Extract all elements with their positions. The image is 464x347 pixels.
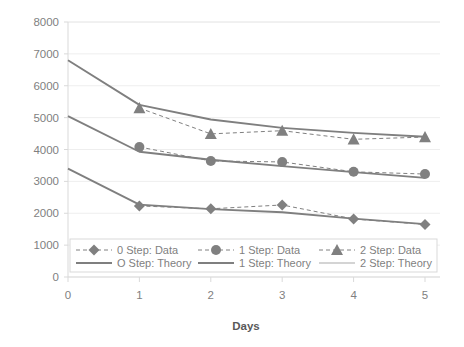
legend-label: 2 Step: Theory	[360, 257, 432, 269]
x-tick-label: 3	[279, 289, 285, 301]
legend-label: 1 Step: Data	[239, 244, 301, 256]
x-tick-label: 2	[208, 289, 214, 301]
y-tick-label: 2000	[33, 207, 59, 219]
legend-label: O Step: Theory	[117, 257, 192, 269]
y-axis-tick-labels: 010002000300040005000600070008000	[33, 16, 59, 283]
x-tick-label: 1	[136, 289, 142, 301]
y-tick-label: 1000	[33, 239, 59, 251]
data-point-marker	[206, 156, 216, 166]
x-axis-title: Days	[232, 320, 260, 332]
y-tick-label: 4000	[33, 144, 59, 156]
legend-marker-sample	[211, 245, 221, 255]
y-tick-label: 7000	[33, 48, 59, 60]
y-tick-label: 3000	[33, 175, 59, 187]
y-tick-label: 5000	[33, 112, 59, 124]
legend-item[interactable]: 1 Step: Data	[198, 244, 301, 256]
x-tick-label: 0	[65, 289, 71, 301]
x-tick-label: 4	[350, 289, 357, 301]
y-tick-label: 6000	[33, 80, 59, 92]
x-tick-label: 5	[422, 289, 428, 301]
line-chart: 010002000300040005000600070008000 012345…	[0, 0, 464, 347]
y-tick-label: 0	[53, 271, 59, 283]
legend-label: 0 Step: Data	[117, 244, 179, 256]
chart-legend: 0 Step: Data1 Step: Data2 Step: DataO St…	[70, 239, 437, 272]
legend-label: 1 Step: Theory	[239, 257, 311, 269]
legend-label: 2 Step: Data	[360, 244, 422, 256]
chart-container: 010002000300040005000600070008000 012345…	[0, 0, 464, 347]
y-tick-label: 8000	[33, 16, 59, 28]
